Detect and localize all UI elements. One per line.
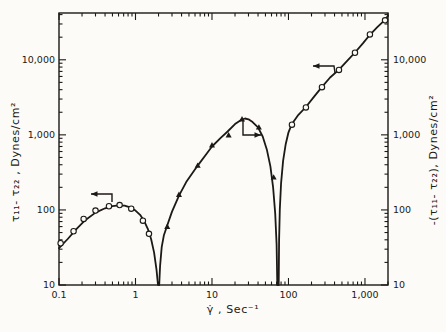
y-left-tick-label: 10 [43, 279, 55, 290]
y-left-tick-label: 1,000 [28, 129, 55, 140]
data-point-circle [129, 206, 134, 211]
chart-canvas: 0.11101001,000101001,00010,000101001,000… [0, 0, 446, 332]
y-right-tick-label: 10 [393, 279, 405, 290]
x-tick-label: 0.1 [51, 289, 66, 300]
y-right-tick-label: 1,000 [393, 129, 420, 140]
data-point-circle [140, 218, 145, 223]
x-tick-label: 1,000 [351, 289, 378, 300]
axis-pointer-arrowhead [313, 63, 320, 69]
data-point-circle [146, 231, 151, 236]
x-tick-label: 100 [279, 289, 297, 300]
right-axis-title: -(τ₁₁- τ₂₂), Dynes/cm² [427, 95, 440, 225]
data-point-circle [117, 202, 122, 207]
data-point-circle [382, 18, 387, 23]
curve-branch-1 [59, 205, 158, 285]
figure-container: 0.11101001,000101001,00010,000101001,000… [0, 0, 446, 332]
data-point-circle [336, 67, 341, 72]
curve-branch-3 [279, 16, 388, 285]
x-tick-label: 1 [132, 289, 138, 300]
x-axis-title: γ̇ , Sec⁻¹ [207, 303, 259, 316]
data-point-circle [319, 84, 324, 89]
y-right-tick-label: 100 [393, 204, 411, 215]
curve-branch-2 [159, 119, 277, 286]
data-point-circle [58, 241, 63, 246]
y-right-tick-label: 10,000 [393, 54, 426, 65]
data-point-circle [367, 32, 372, 37]
y-left-tick-label: 10,000 [22, 54, 55, 65]
data-point-circle [93, 208, 98, 213]
data-point-circle [106, 204, 111, 209]
left-axis-title: τ₁₁- τ₂₂ , Dynes/cm² [9, 102, 22, 222]
data-point-circle [303, 105, 308, 110]
plot-frame [59, 13, 388, 285]
data-point-circle [81, 216, 86, 221]
data-point-circle [352, 50, 357, 55]
data-point-circle [289, 122, 294, 127]
axis-pointer-arrowhead [91, 191, 98, 197]
y-left-tick-label: 100 [37, 204, 55, 215]
data-point-triangle [164, 223, 170, 228]
data-point-circle [71, 229, 76, 234]
x-tick-label: 10 [206, 289, 218, 300]
